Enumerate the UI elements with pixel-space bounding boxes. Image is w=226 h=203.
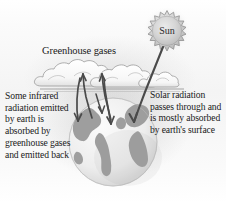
solar-radiation-caption: Solar radiation passes through and is mo…: [150, 89, 224, 136]
infrared-radiation-caption: Some infrared radiation emitted by earth…: [5, 90, 79, 160]
greenhouse-effect-diagram: Sun Greenhouse gases Some infrared radia…: [0, 0, 226, 203]
earth-globe: [69, 98, 162, 186]
sun-label: Sun: [152, 25, 182, 37]
greenhouse-gases-label: Greenhouse gases: [42, 45, 116, 58]
